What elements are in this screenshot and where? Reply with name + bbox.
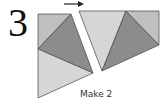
- arrow-right-icon: [64, 1, 84, 7]
- step-caption: Make 2: [80, 89, 112, 99]
- right-unit: [79, 11, 159, 71]
